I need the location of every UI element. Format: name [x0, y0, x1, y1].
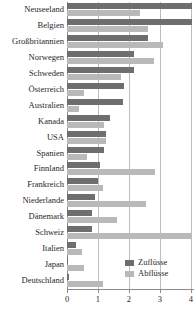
legend-label-inflow: Zuflüsse	[138, 258, 167, 267]
bar-group	[67, 115, 194, 130]
category-label: Finnland	[0, 164, 64, 173]
bar-group	[67, 99, 194, 114]
category-label: Schweiz	[0, 228, 64, 237]
bar-group	[67, 162, 194, 177]
bar-group	[67, 51, 194, 66]
bar-inflow	[67, 274, 69, 280]
bar-outflow	[67, 10, 140, 16]
bar-inflow	[67, 67, 134, 73]
bar-outflow	[67, 122, 104, 128]
bar-inflow	[67, 83, 124, 89]
bar-inflow	[67, 226, 92, 232]
bar-group	[67, 242, 194, 257]
bar-outflow	[67, 233, 192, 239]
bar-inflow	[67, 19, 192, 25]
category-axis: NeuseelandBelgienGroßbritannienNorwegenS…	[0, 2, 64, 289]
x-tick-label-0: 0	[60, 295, 74, 304]
x-tick-label-2: 2	[122, 295, 136, 304]
bar-inflow	[67, 147, 104, 153]
x-tick-label-1: 1	[91, 295, 105, 304]
bar-group	[67, 131, 194, 146]
bar-outflow	[67, 90, 84, 96]
category-label: Kanada	[0, 117, 64, 126]
legend-item-inflow: Zuflüsse	[125, 257, 193, 268]
bar-outflow	[67, 217, 117, 223]
bar-outflow	[67, 201, 146, 207]
category-label: Spanien	[0, 149, 64, 158]
bar-inflow	[67, 162, 100, 168]
bar-outflow	[67, 74, 121, 80]
category-label: Frankreich	[0, 180, 64, 189]
legend-item-outflow: Abflüsse	[125, 268, 193, 279]
category-label: USA	[0, 133, 64, 142]
bar-group	[67, 83, 194, 98]
bar-inflow	[67, 258, 68, 264]
category-label: Deutschland	[0, 276, 64, 285]
bar-outflow	[67, 185, 103, 191]
category-label: Belgien	[0, 21, 64, 30]
tickmark-2	[129, 289, 130, 293]
bar-group	[67, 178, 194, 193]
bar-outflow	[67, 58, 154, 64]
bar-group	[67, 210, 194, 225]
bar-group	[67, 194, 194, 209]
category-label: Australien	[0, 101, 64, 110]
x-tick-label-4: 4	[184, 295, 196, 304]
bar-inflow	[67, 210, 92, 216]
bar-group	[67, 35, 194, 50]
x-tick-label-3: 3	[153, 295, 167, 304]
tickmark-4	[191, 289, 192, 293]
bar-group	[67, 147, 194, 162]
legend-label-outflow: Abflüsse	[138, 269, 168, 278]
bar-outflow	[67, 106, 79, 112]
category-label: Österreich	[0, 85, 64, 94]
bar-inflow	[67, 194, 95, 200]
bar-outflow	[67, 281, 103, 287]
bar-outflow	[67, 42, 163, 48]
bar-outflow	[67, 169, 155, 175]
bar-group	[67, 67, 194, 82]
bar-outflow	[67, 138, 106, 144]
bar-inflow	[67, 242, 76, 248]
bar-inflow	[67, 99, 123, 105]
bar-outflow	[67, 154, 87, 160]
tickmark-3	[160, 289, 161, 293]
bar-outflow	[67, 249, 82, 255]
plot-area	[67, 2, 194, 289]
x-axis-line	[67, 289, 194, 290]
legend-swatch-outflow	[125, 271, 134, 277]
category-label: Niederlande	[0, 196, 64, 205]
category-label: Großbritannien	[0, 37, 64, 46]
bar-outflow	[67, 26, 148, 32]
bar-inflow	[67, 115, 110, 121]
tickmark-1	[98, 289, 99, 293]
category-label: Neuseeland	[0, 5, 64, 14]
bar-outflow	[67, 265, 84, 271]
category-label: Japan	[0, 260, 64, 269]
bar-inflow	[67, 51, 134, 57]
legend-swatch-inflow	[125, 260, 134, 266]
tickmark-0	[67, 289, 68, 293]
bar-inflow	[67, 131, 106, 137]
legend: Zuflüsse Abflüsse	[125, 257, 193, 279]
bar-chart: NeuseelandBelgienGroßbritannienNorwegenS…	[0, 0, 196, 316]
bar-inflow	[67, 178, 98, 184]
bar-rows	[67, 2, 194, 289]
bar-inflow	[67, 35, 148, 41]
category-label: Dänemark	[0, 212, 64, 221]
category-label: Norwegen	[0, 53, 64, 62]
bar-group	[67, 3, 194, 18]
bar-group	[67, 19, 194, 34]
bar-inflow	[67, 3, 192, 9]
category-label: Italien	[0, 244, 64, 253]
bar-group	[67, 226, 194, 241]
category-label: Schweden	[0, 69, 64, 78]
